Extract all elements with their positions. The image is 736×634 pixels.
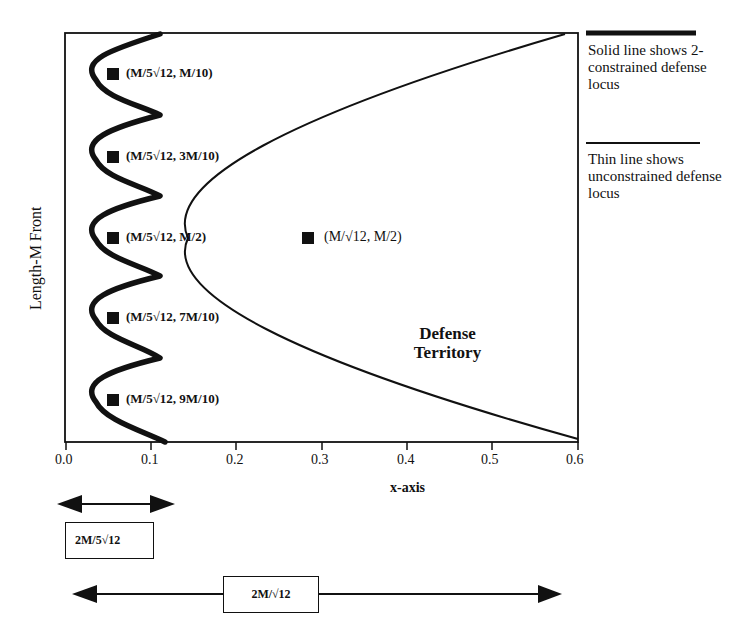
defense-territory-line2: Territory [400, 343, 495, 362]
small-width-box: 2M/5√12 [65, 522, 154, 559]
x-tick-0.1: 0.1 [141, 452, 159, 468]
point-label-m2: (M/5√12, M/2) [126, 229, 206, 245]
x-tick-0.6: 0.6 [566, 452, 584, 468]
x-tick-0.2: 0.2 [226, 452, 244, 468]
y-axis-title: Length-M Front [27, 206, 45, 310]
small-width-label: 2M/5√12 [75, 533, 120, 548]
point-label-9m10: (M/5√12, 9M/10) [126, 391, 219, 407]
x-axis-title: x-axis [390, 480, 425, 496]
defense-territory-line1: Defense [400, 324, 495, 343]
x-tick-0.3: 0.3 [311, 452, 329, 468]
x-tick-0.0: 0.0 [55, 452, 73, 468]
x-tick-0.5: 0.5 [481, 452, 499, 468]
marker-p5 [107, 394, 119, 406]
legend-solid-text: Solid line shows 2-constrained defense l… [588, 42, 728, 93]
point-label-7m10: (M/5√12, 7M/10) [126, 309, 219, 325]
defense-territory-label: Defense Territory [400, 324, 495, 362]
large-width-label: 2M/√12 [251, 587, 290, 602]
point-label-unconstrained-center: (M/√12, M/2) [324, 229, 402, 245]
point-label-3m10: (M/5√12, 3M/10) [126, 148, 219, 164]
large-width-box: 2M/√12 [223, 576, 319, 613]
x-axis-ticks [66, 442, 578, 450]
x-tick-0.4: 0.4 [397, 452, 415, 468]
legend-thin-text: Thin line shows unconstrained defense lo… [588, 151, 728, 202]
marker-p2 [107, 151, 119, 163]
small-width-arrow [57, 495, 175, 513]
marker-p3 [107, 232, 119, 244]
point-label-m10: (M/5√12, M/10) [126, 65, 213, 81]
marker-p4 [107, 312, 119, 324]
marker-p6 [302, 232, 314, 244]
marker-p1 [107, 68, 119, 80]
